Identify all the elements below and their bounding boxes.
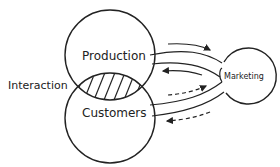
production-label: Production [82,49,146,63]
arrow-marketing-to-production [163,71,202,75]
production-marketing-band [150,52,222,77]
arrow-marketing-to-customers [167,112,210,121]
customers-label: Customers [82,106,147,120]
customers-marketing-band [150,82,224,116]
marketing-label: Marketing [224,72,264,81]
arrow-customers-to-marketing [168,86,206,95]
interaction-diagram: Production Customers Marketing Interacti… [0,0,280,167]
interaction-label: Interaction [8,79,68,92]
arrow-production-to-marketing [168,44,210,50]
